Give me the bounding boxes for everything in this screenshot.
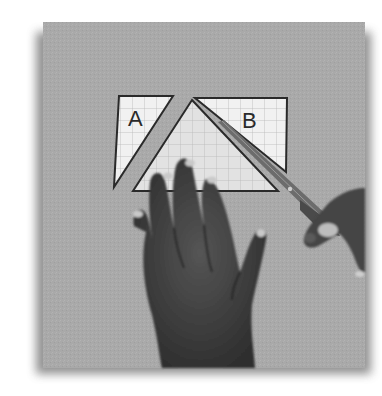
photo-canvas: A B xyxy=(0,0,382,396)
label-a: A xyxy=(128,106,143,131)
label-b: B xyxy=(242,108,257,133)
photo: A B xyxy=(0,0,382,396)
